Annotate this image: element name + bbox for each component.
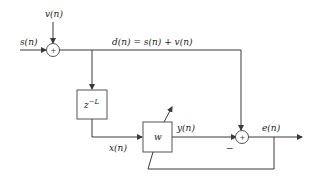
- output-signal-y: y(n) −: [172, 123, 236, 153]
- label-v: v(n): [45, 9, 63, 19]
- adaptation-arrow: [164, 107, 172, 122]
- block-diagram: s(n) v(n) + d(n) = s(n) + v(n) z−L x(n) …: [0, 0, 318, 181]
- plus-sign-bottom: +: [240, 134, 246, 142]
- adaptive-filter-block: w: [143, 107, 172, 152]
- delay-block: z−L: [77, 90, 107, 119]
- label-e: e(n): [262, 123, 281, 133]
- plus-sign-top: +: [51, 47, 57, 55]
- noise-signal-v: v(n): [45, 9, 63, 43]
- label-d: d(n) = s(n) + v(n): [112, 37, 193, 47]
- label-x: x(n): [109, 143, 127, 153]
- delayed-signal-x: x(n): [92, 119, 142, 153]
- bottom-summing-junction: +: [236, 131, 249, 144]
- top-summing-junction: +: [47, 44, 60, 57]
- delay-exponent: −L: [89, 98, 100, 106]
- error-signal-e: e(n): [249, 123, 303, 137]
- filter-label: w: [154, 132, 162, 142]
- label-y: y(n): [176, 123, 195, 133]
- minus-sign: −: [226, 143, 234, 153]
- input-signal-s: s(n): [20, 37, 46, 50]
- label-s: s(n): [20, 37, 38, 47]
